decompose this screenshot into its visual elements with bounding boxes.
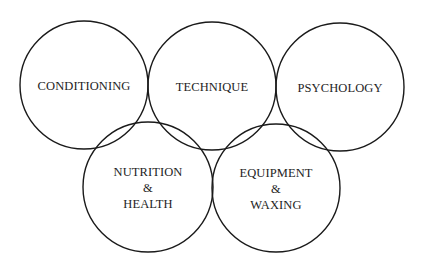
label-line: CONDITIONING — [38, 78, 131, 94]
label-conditioning: CONDITIONING — [38, 78, 131, 94]
label-line: TECHNIQUE — [176, 79, 248, 95]
label-line: WAXING — [239, 197, 312, 213]
label-line: & — [239, 181, 312, 197]
label-psychology: PSYCHOLOGY — [297, 80, 382, 96]
label-line: EQUIPMENT — [239, 165, 312, 181]
label-equipment-waxing: EQUIPMENT & WAXING — [239, 165, 312, 213]
label-technique: TECHNIQUE — [176, 79, 248, 95]
label-line: & — [114, 180, 183, 196]
label-line: NUTRITION — [114, 164, 183, 180]
rings-diagram — [0, 0, 422, 271]
label-line: HEALTH — [114, 196, 183, 212]
label-nutrition-health: NUTRITION & HEALTH — [114, 164, 183, 212]
label-line: PSYCHOLOGY — [297, 80, 382, 96]
